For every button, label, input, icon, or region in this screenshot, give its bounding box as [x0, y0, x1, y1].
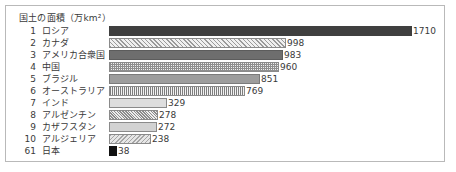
- table-row: 9 カザフスタン 272: [6, 121, 444, 133]
- bar-value-label: 329: [167, 98, 185, 108]
- row-rank: 1: [14, 25, 36, 37]
- table-row: 5 ブラジル 851: [6, 73, 444, 85]
- bar-value-label: 769: [245, 86, 263, 96]
- bar-track: 960: [109, 62, 440, 72]
- bar-rows: 1 ロシア 1710 2 カナダ 998 3 アメリカ合衆国 983 4: [6, 25, 444, 157]
- row-rank: 6: [14, 85, 36, 97]
- bar: [109, 146, 117, 156]
- row-rank: 8: [14, 109, 36, 121]
- bar: [109, 134, 151, 144]
- bar-track: 983: [109, 50, 440, 60]
- row-rank: 5: [14, 73, 36, 85]
- chart-panel: 国土の面積（万km²） 1 ロシア 1710 2 カナダ 998 3 アメリカ合…: [5, 5, 445, 162]
- bar: [109, 86, 245, 96]
- table-row: 61 日本 38: [6, 145, 444, 157]
- row-label: ロシア: [42, 25, 69, 37]
- row-rank: 10: [14, 133, 36, 145]
- row-rank: 61: [14, 145, 36, 157]
- row-rank: 7: [14, 97, 36, 109]
- bar-value-label: 278: [158, 110, 176, 120]
- table-row: 1 ロシア 1710: [6, 25, 444, 37]
- bar-track: 1710: [109, 26, 440, 36]
- bar-track: 329: [109, 98, 440, 108]
- row-label: 中国: [42, 61, 60, 73]
- bar: [109, 74, 260, 84]
- bar-track: 278: [109, 110, 440, 120]
- row-rank: 9: [14, 121, 36, 133]
- bar: [109, 38, 286, 48]
- bar: [109, 98, 167, 108]
- table-row: 7 インド 329: [6, 97, 444, 109]
- row-rank: 2: [14, 37, 36, 49]
- row-rank: 3: [14, 49, 36, 61]
- bar-track: 38: [109, 146, 440, 156]
- bar: [109, 122, 157, 132]
- table-row: 2 カナダ 998: [6, 37, 444, 49]
- row-label: アメリカ合衆国: [42, 49, 105, 61]
- row-rank: 4: [14, 61, 36, 73]
- bar-track: 769: [109, 86, 440, 96]
- bar-value-label: 851: [260, 74, 278, 84]
- row-label: アルジェリア: [42, 133, 96, 145]
- bar: [109, 26, 412, 36]
- row-label: オーストラリア: [42, 85, 105, 97]
- table-row: 6 オーストラリア 769: [6, 85, 444, 97]
- row-label: カナダ: [42, 37, 69, 49]
- bar: [109, 110, 158, 120]
- table-row: 10 アルジェリア 238: [6, 133, 444, 145]
- bar-value-label: 960: [279, 62, 297, 72]
- row-label: アルゼンチン: [42, 109, 96, 121]
- row-label: インド: [42, 97, 69, 109]
- table-row: 3 アメリカ合衆国 983: [6, 49, 444, 61]
- bar-value-label: 1710: [412, 26, 436, 36]
- bar-value-label: 238: [151, 134, 169, 144]
- table-row: 4 中国 960: [6, 61, 444, 73]
- bar-track: 238: [109, 134, 440, 144]
- bar-track: 998: [109, 38, 440, 48]
- row-label: ブラジル: [42, 73, 78, 85]
- bar-value-label: 983: [283, 50, 301, 60]
- bar-value-label: 38: [117, 146, 129, 156]
- row-label: カザフスタン: [42, 121, 96, 133]
- chart-title: 国土の面積（万km²）: [19, 11, 111, 24]
- bar-value-label: 998: [286, 38, 304, 48]
- bar-value-label: 272: [157, 122, 175, 132]
- bar-track: 272: [109, 122, 440, 132]
- table-row: 8 アルゼンチン 278: [6, 109, 444, 121]
- row-label: 日本: [42, 145, 60, 157]
- bar: [109, 62, 279, 72]
- bar-track: 851: [109, 74, 440, 84]
- bar: [109, 50, 283, 60]
